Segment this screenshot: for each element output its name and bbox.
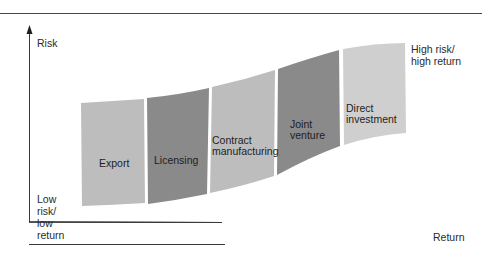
x-axis-label: Return [433, 231, 465, 243]
low-risk-label: Low risk/ low return [37, 193, 64, 241]
band-label-contract-manufacturing: Contract manufacturing [212, 135, 279, 157]
contract-line-2: manufacturing [212, 146, 279, 157]
diagram-canvas [0, 0, 503, 260]
direct-line-2: investment [346, 114, 397, 125]
low-risk-line-2: risk/ [37, 205, 64, 217]
low-risk-line-1: Low [37, 193, 64, 205]
band-joint-venture [277, 50, 340, 175]
band-direct-investment [343, 43, 406, 145]
high-risk-line-1: High risk/ [411, 43, 461, 55]
low-risk-line-4: return [37, 229, 64, 241]
band-contract-manufacturing [210, 70, 275, 193]
high-risk-line-2: high return [411, 55, 461, 67]
band-licensing [147, 88, 209, 204]
low-risk-line-3: low [37, 217, 64, 229]
band-label-joint-venture: Joint venture [290, 119, 325, 141]
band-label-export: Export [99, 158, 129, 169]
band-label-direct-investment: Direct investment [346, 103, 397, 125]
joint-line-2: venture [290, 130, 325, 141]
y-axis-arrow-icon [27, 25, 33, 34]
band-label-licensing: Licensing [154, 155, 198, 166]
y-axis-label: Risk [37, 37, 57, 49]
band-export [81, 99, 145, 206]
high-risk-label: High risk/ high return [411, 43, 461, 67]
x-axis-rule [29, 244, 225, 245]
